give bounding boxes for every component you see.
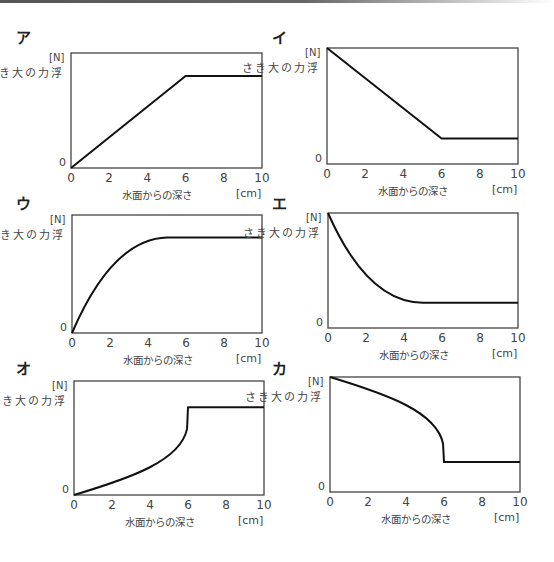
- x-axis-label: 水面からの深さ: [123, 352, 193, 367]
- plot-frame: [330, 377, 520, 492]
- x-tick-label: 10: [254, 336, 269, 350]
- x-tick-label: 8: [476, 167, 484, 181]
- x-tick-label: 0: [67, 171, 75, 185]
- y-axis-zero: 0: [315, 152, 322, 165]
- y-axis-label: 浮力の大きさ: [309, 391, 321, 402]
- x-tick-label: 2: [362, 331, 370, 345]
- plot-frame: [328, 213, 518, 328]
- y-axis-label: 浮力の大きさ: [53, 395, 65, 406]
- x-tick-label: 2: [361, 167, 369, 181]
- x-tick-label: 4: [400, 331, 408, 345]
- x-tick-label: 2: [106, 336, 114, 350]
- panel-label: カ: [272, 357, 287, 378]
- x-axis-unit: [cm]: [238, 514, 263, 527]
- x-tick-label: 10: [254, 171, 269, 185]
- x-axis-label: 水面からの深さ: [379, 347, 449, 362]
- x-tick-label: 6: [182, 336, 190, 350]
- panel-label: ア: [16, 26, 31, 47]
- y-axis-unit: [N]: [305, 47, 320, 58]
- data-line: [328, 213, 518, 303]
- x-tick-label: 4: [146, 498, 154, 512]
- x-axis-label: 水面からの深さ: [122, 187, 192, 202]
- plot-frame: [74, 381, 264, 495]
- x-axis-unit: [cm]: [492, 183, 517, 196]
- x-tick-label: 4: [144, 336, 152, 350]
- panel-label: エ: [272, 192, 287, 213]
- x-axis-unit: [cm]: [492, 347, 517, 360]
- y-axis-unit: [N]: [308, 376, 323, 387]
- x-axis-label: 水面からの深さ: [378, 183, 448, 198]
- top-border-line: [0, 0, 554, 3]
- x-tick-label: 8: [478, 495, 486, 509]
- plot-frame: [72, 215, 262, 333]
- x-tick-label: 2: [105, 171, 113, 185]
- y-axis-zero: 0: [60, 321, 67, 334]
- plot-area: [0, 0, 554, 562]
- x-tick-label: 10: [256, 498, 271, 512]
- y-axis-unit: [N]: [306, 212, 321, 223]
- plot-area: [0, 0, 554, 562]
- plot-area: [0, 0, 554, 562]
- x-tick-label: 2: [364, 495, 372, 509]
- x-tick-label: 0: [323, 167, 331, 181]
- x-tick-label: 4: [400, 167, 408, 181]
- y-axis-zero: 0: [316, 316, 323, 329]
- x-tick-label: 6: [438, 167, 446, 181]
- x-axis-label: 水面からの深さ: [381, 511, 451, 526]
- x-tick-label: 0: [68, 336, 76, 350]
- plot-area: [0, 0, 554, 562]
- y-axis-unit: [N]: [49, 52, 64, 63]
- y-axis-unit: [N]: [52, 380, 67, 391]
- y-axis-label: 浮力の大きさ: [306, 62, 318, 73]
- x-tick-label: 6: [184, 498, 192, 512]
- x-axis-unit: [cm]: [236, 187, 261, 200]
- y-axis-zero: 0: [318, 480, 325, 493]
- data-line: [71, 76, 262, 168]
- y-axis-label: 浮力の大きさ: [50, 67, 62, 78]
- x-tick-label: 0: [326, 495, 334, 509]
- x-tick-label: 8: [220, 336, 228, 350]
- y-axis-zero: 0: [59, 156, 66, 169]
- x-tick-label: 8: [220, 171, 228, 185]
- data-line: [330, 377, 520, 462]
- x-tick-label: 6: [440, 495, 448, 509]
- plot-frame: [327, 48, 518, 164]
- x-tick-label: 10: [510, 167, 525, 181]
- plot-frame: [71, 53, 262, 168]
- x-tick-label: 4: [402, 495, 410, 509]
- plot-area: [0, 0, 554, 562]
- x-tick-label: 10: [510, 331, 525, 345]
- plot-area: [0, 0, 554, 562]
- x-tick-label: 4: [144, 171, 152, 185]
- x-tick-label: 2: [108, 498, 116, 512]
- y-axis-label: 浮力の大きさ: [51, 229, 63, 240]
- data-line: [72, 237, 262, 333]
- x-tick-label: 10: [512, 495, 527, 509]
- x-axis-unit: [cm]: [494, 511, 519, 524]
- data-line: [327, 48, 518, 139]
- y-axis-zero: 0: [62, 483, 69, 496]
- y-axis-label: 浮力の大きさ: [307, 227, 319, 238]
- x-tick-label: 8: [476, 331, 484, 345]
- x-axis-unit: [cm]: [236, 352, 261, 365]
- panel-label: ウ: [16, 192, 31, 213]
- x-tick-label: 6: [438, 331, 446, 345]
- panel-label: イ: [272, 26, 287, 47]
- x-tick-label: 0: [324, 331, 332, 345]
- x-tick-label: 8: [222, 498, 230, 512]
- y-axis-unit: [N]: [50, 214, 65, 225]
- panel-label: オ: [16, 357, 31, 378]
- data-line: [74, 407, 264, 495]
- x-tick-label: 6: [182, 171, 190, 185]
- x-axis-label: 水面からの深さ: [125, 514, 195, 529]
- x-tick-label: 0: [70, 498, 78, 512]
